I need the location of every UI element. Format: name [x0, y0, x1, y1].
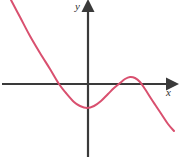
plot-area — [0, 0, 180, 162]
cubic-curve-path — [11, 0, 174, 131]
y-axis-label: y — [75, 1, 80, 12]
graph-figure: y x — [0, 0, 180, 162]
x-axis-label: x — [166, 87, 171, 98]
